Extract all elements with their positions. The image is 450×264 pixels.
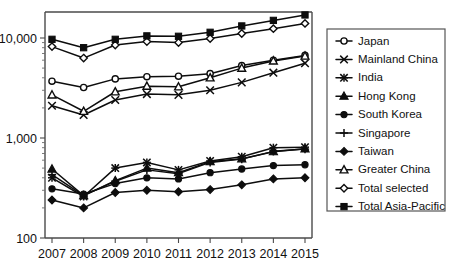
data-point	[144, 74, 150, 80]
data-point	[111, 164, 119, 172]
data-point	[81, 45, 87, 51]
legend-label: India	[358, 71, 384, 83]
data-point	[49, 78, 55, 84]
data-point	[270, 17, 276, 23]
data-point	[112, 76, 118, 82]
data-point	[144, 33, 150, 39]
legend-marker-filled-square-icon	[341, 204, 347, 210]
line-chart: 1001,00010,000 2007200820092010201120122…	[0, 0, 450, 264]
legend-marker-open-circle-icon	[341, 38, 347, 44]
legend-label: Total selected	[358, 182, 428, 194]
legend-label: Taiwan	[358, 145, 394, 157]
x-tick-label: 2015	[291, 247, 319, 261]
x-tick-label: 2010	[133, 247, 161, 261]
x-tick-label: 2007	[38, 247, 66, 261]
data-point	[302, 12, 308, 18]
data-point	[112, 36, 118, 42]
legend-label: Mainland China	[358, 53, 439, 65]
data-point	[175, 33, 181, 39]
data-point	[302, 162, 308, 168]
legend-marker-filled-circle-icon	[341, 112, 347, 118]
x-tick-label: 2014	[259, 247, 287, 261]
legend-label: Singapore	[358, 127, 410, 139]
y-tick-label: 100	[16, 232, 37, 246]
legend-label: South Korea	[358, 108, 423, 120]
data-point	[239, 166, 245, 172]
chart-screenshot: 1001,00010,000 2007200820092010201120122…	[0, 0, 450, 264]
y-tick-label: 1,000	[6, 132, 37, 146]
x-tick-label: 2011	[165, 247, 192, 261]
x-tick-label: 2012	[196, 247, 224, 261]
data-point	[207, 29, 213, 35]
data-point	[175, 73, 181, 79]
data-point	[207, 170, 213, 176]
x-tick-label: 2013	[228, 247, 256, 261]
x-tick-label: 2008	[70, 247, 98, 261]
legend-label: Japan	[358, 35, 389, 47]
y-tick-label: 10,000	[0, 32, 37, 46]
data-point	[144, 175, 150, 181]
data-point	[270, 162, 276, 168]
data-point	[49, 36, 55, 42]
legend-label: Hong Kong	[358, 90, 416, 102]
data-point	[81, 84, 87, 90]
chart-legend: JapanMainland ChinaIndiaHong KongSouth K…	[327, 29, 445, 212]
legend-label: Total Asia-Pacific	[358, 200, 445, 212]
legend-marker-asterisk-icon	[340, 74, 348, 82]
data-point	[49, 186, 55, 192]
legend-label: Greater China	[358, 163, 431, 175]
x-tick-label: 2009	[101, 247, 129, 261]
data-point	[239, 23, 245, 29]
